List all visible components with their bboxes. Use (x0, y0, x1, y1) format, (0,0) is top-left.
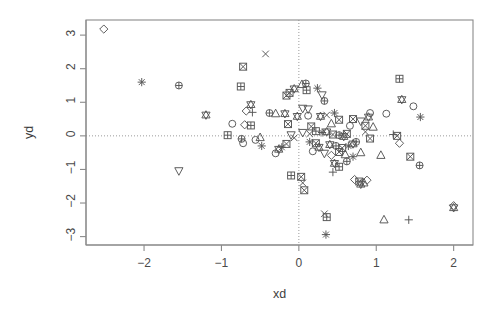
data-point (322, 230, 330, 238)
x-tick-label: 1 (373, 256, 380, 270)
x-tick-label: −1 (215, 256, 229, 270)
y-tick-label: 0 (64, 130, 78, 137)
figure-background (0, 0, 497, 318)
data-point (343, 158, 350, 165)
data-point (238, 135, 245, 142)
data-point (416, 162, 423, 169)
data-point (302, 80, 309, 87)
y-tick-label: −1 (64, 160, 78, 174)
y-tick-label: −3 (64, 227, 78, 241)
data-point (416, 113, 424, 121)
data-point (313, 84, 321, 92)
data-point (353, 138, 360, 145)
y-tick-label: −2 (64, 194, 78, 208)
y-tick-label: 3 (64, 29, 78, 36)
y-tick-label: 1 (64, 97, 78, 104)
x-tick-label: −2 (137, 256, 151, 270)
scatter-plot-figure: −2−1012 3210−1−2−3 xd yd (0, 0, 497, 318)
y-axis-title: yd (22, 126, 36, 139)
x-tick-label: 0 (296, 256, 303, 270)
chart-canvas: −2−1012 3210−1−2−3 xd yd (0, 0, 497, 318)
x-tick-label: 2 (450, 256, 457, 270)
data-point (138, 78, 146, 86)
data-point (175, 82, 182, 89)
data-point (321, 97, 328, 104)
x-axis-title: xd (273, 287, 286, 301)
y-tick-label: 2 (64, 63, 78, 70)
data-point (258, 142, 266, 150)
